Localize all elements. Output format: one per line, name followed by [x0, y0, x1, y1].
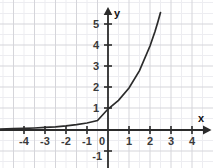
y-tick-label-2: 2: [93, 81, 99, 93]
origin-label: 0: [99, 135, 105, 147]
exponential-function-graph: -4 -3 -2 -1 1 2 3 4 0 5 4 3 2 1 -1 y x: [0, 0, 213, 168]
y-axis-name: y: [114, 7, 121, 19]
x-tick-label-1: 1: [126, 135, 132, 147]
y-tick-label-neg1: -1: [92, 150, 102, 162]
x-tick-label-neg2: -2: [61, 135, 71, 147]
x-tick-label-neg3: -3: [40, 135, 50, 147]
x-tick-label-neg4: -4: [19, 135, 30, 147]
x-axis-name: x: [198, 112, 205, 124]
y-tick-label-5: 5: [93, 18, 99, 30]
x-tick-label-4: 4: [189, 135, 196, 147]
y-tick-label-4: 4: [93, 39, 100, 51]
x-tick-label-3: 3: [168, 135, 174, 147]
y-tick-label-1: 1: [93, 102, 99, 114]
y-tick-label-3: 3: [93, 60, 99, 72]
x-tick-label-neg1: -1: [82, 135, 92, 147]
x-tick-label-2: 2: [147, 135, 153, 147]
